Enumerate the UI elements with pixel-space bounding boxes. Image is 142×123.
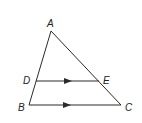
label-c: C: [125, 102, 133, 113]
segment-ab: [29, 31, 51, 105]
parallel-arrow-de-icon: [64, 78, 72, 84]
label-e: E: [103, 75, 110, 86]
segment-ac: [51, 31, 121, 105]
parallel-arrow-bc-icon: [63, 102, 71, 108]
triangle-diagram: A D E B C: [0, 0, 142, 123]
label-d: D: [23, 75, 30, 86]
label-b: B: [18, 102, 25, 113]
label-a: A: [46, 18, 54, 29]
